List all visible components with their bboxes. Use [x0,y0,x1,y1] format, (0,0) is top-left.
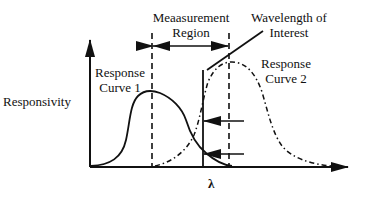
x-axis-label: λ [208,176,214,191]
measurement-region-line1: Meaasurement [145,10,237,25]
wavelength-label: Wavelength of Interest [247,10,331,40]
curve2-line2: Curve 2 [258,71,314,86]
curve1-label: Response Curve 1 [92,65,148,95]
curve1-line2: Curve 1 [92,80,148,95]
curve2-line1: Response [258,56,314,71]
curve1-line1: Response [92,65,148,80]
measurement-region-label: Meaasurement Region [145,10,237,40]
wavelength-line2: Interest [247,25,331,40]
curve2-label: Response Curve 2 [258,56,314,86]
region-arrowhead-left [153,41,170,51]
measurement-region-line2: Region [145,25,237,40]
wavelength-line1: Wavelength of [247,10,331,25]
y-axis-label: Responsivity [3,94,71,109]
